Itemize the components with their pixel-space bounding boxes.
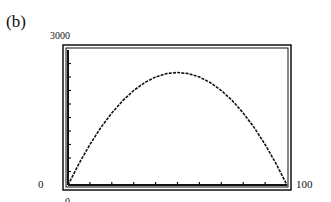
calculator-graph	[0, 0, 331, 202]
data-curve	[68, 73, 287, 186]
window-frame-outer	[63, 45, 291, 190]
axis-ticks	[68, 64, 265, 186]
window-frame-inner	[66, 48, 288, 187]
